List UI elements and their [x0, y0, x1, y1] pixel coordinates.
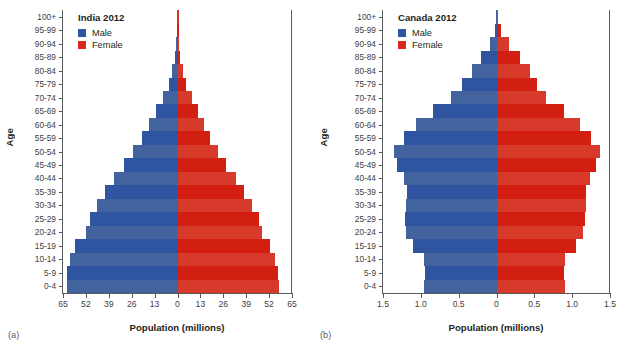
bar-male-10-14 [70, 253, 177, 266]
pyramid-row [63, 158, 292, 171]
y-tick-label-40-44: 40-44 [355, 173, 376, 183]
legend-item-female: Female [398, 40, 457, 50]
x-tick [534, 293, 535, 298]
bar-female-95-99 [178, 24, 179, 37]
y-tick-label-55-59: 55-59 [35, 133, 56, 143]
x-tick-label-13: 13 [196, 299, 206, 309]
bar-female-60-64 [497, 118, 580, 131]
y-tick [379, 125, 383, 126]
y-tick [379, 30, 383, 31]
bar-male-50-54 [133, 145, 177, 158]
y-axis-title: Age [318, 128, 332, 147]
bar-male-25-29 [405, 212, 497, 225]
y-tick-label-0-4: 0-4 [364, 281, 376, 291]
bar-female-5-9 [497, 266, 564, 279]
x-tick [269, 293, 270, 298]
plot-frame-canada: 0-45-910-1415-1920-2425-2930-3435-3940-4… [382, 10, 610, 294]
bar-male-85-89 [481, 51, 496, 64]
y-tick [379, 286, 383, 287]
x-tick [86, 293, 87, 298]
y-tick [59, 30, 63, 31]
y-tick-label-5-9: 5-9 [44, 268, 56, 278]
legend-item-male: Male [78, 28, 124, 38]
bar-male-90-94 [490, 37, 497, 50]
x-tick-label-65: 65 [287, 299, 297, 309]
y-tick-label-60-64: 60-64 [35, 120, 56, 130]
bar-male-20-24 [86, 226, 178, 239]
x-tick-label-13: 13 [150, 299, 160, 309]
x-axis-ticks-india: 655239261301326395265 [63, 293, 292, 298]
bar-female-30-34 [178, 199, 253, 212]
y-tick-label-85-89: 85-89 [355, 52, 376, 62]
chart-area-canada: 0-45-910-1415-1920-2425-2930-3435-3940-4… [382, 10, 610, 294]
x-tick [610, 293, 611, 298]
y-tick-label-65-69: 65-69 [355, 106, 376, 116]
pyramid-row [383, 226, 610, 239]
pyramid-rows-india [63, 10, 292, 293]
x-tick [63, 293, 64, 298]
x-tick-label-26: 26 [127, 299, 137, 309]
bar-male-30-34 [406, 199, 496, 212]
x-tick-label-0.5: 0.5 [453, 299, 465, 309]
bar-male-60-64 [416, 118, 496, 131]
pyramid-row [63, 172, 292, 185]
bar-female-70-74 [497, 91, 547, 104]
y-tick-label-15-19: 15-19 [35, 241, 56, 251]
bar-female-20-24 [497, 226, 583, 239]
y-tick [379, 232, 383, 233]
x-tick [132, 293, 133, 298]
y-tick [379, 84, 383, 85]
x-tick [459, 293, 460, 298]
y-tick [59, 192, 63, 193]
y-tick-label-20-24: 20-24 [355, 227, 376, 237]
y-tick-label-100+: 100+ [357, 12, 376, 22]
bar-male-0-4 [424, 280, 497, 293]
y-axis-title: Age [4, 128, 18, 147]
y-tick [379, 138, 383, 139]
bar-male-10-14 [424, 253, 497, 266]
y-tick-label-80-84: 80-84 [35, 66, 56, 76]
x-tick-label-1.5: 1.5 [604, 299, 616, 309]
bar-male-5-9 [425, 266, 496, 279]
x-tick [383, 293, 384, 298]
bar-male-5-9 [67, 266, 177, 279]
bar-female-60-64 [178, 118, 204, 131]
bar-female-30-34 [497, 199, 586, 212]
y-tick [379, 165, 383, 166]
bar-female-75-79 [178, 78, 187, 91]
y-tick [59, 98, 63, 99]
x-tick [200, 293, 201, 298]
bar-female-90-94 [497, 37, 510, 50]
bar-male-15-19 [75, 239, 177, 252]
pyramid-row [63, 131, 292, 144]
bar-female-15-19 [497, 239, 576, 252]
y-tick-label-65-69: 65-69 [35, 106, 56, 116]
y-tick [59, 152, 63, 153]
pyramid-row [383, 131, 610, 144]
pyramid-row [383, 212, 610, 225]
y-tick-label-45-49: 45-49 [355, 160, 376, 170]
pyramid-row [383, 64, 610, 77]
y-tick-label-40-44: 40-44 [35, 173, 56, 183]
y-tick [379, 98, 383, 99]
bar-female-100+ [497, 10, 498, 23]
bar-male-35-39 [407, 185, 496, 198]
bar-female-55-59 [497, 131, 592, 144]
bar-female-15-19 [178, 239, 270, 252]
y-tick [59, 17, 63, 18]
y-tick-label-70-74: 70-74 [355, 93, 376, 103]
legend-label-female: Female [92, 40, 123, 50]
y-tick-label-45-49: 45-49 [35, 160, 56, 170]
bar-male-75-79 [169, 78, 178, 91]
bar-female-20-24 [178, 226, 263, 239]
pyramid-row [63, 199, 292, 212]
bar-female-85-89 [178, 51, 181, 64]
y-tick [59, 84, 63, 85]
bar-female-25-29 [497, 212, 586, 225]
x-tick [421, 293, 422, 298]
bar-female-35-39 [497, 185, 586, 198]
y-tick-label-75-79: 75-79 [35, 79, 56, 89]
legend-label-female: Female [412, 40, 443, 50]
pyramid-row [63, 253, 292, 266]
x-tick-label-1.5: 1.5 [377, 299, 389, 309]
